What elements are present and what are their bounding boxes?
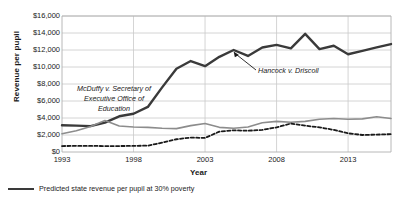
annotation-mcduffy: McDuffy v. Secretary of Executive Office… bbox=[62, 84, 166, 114]
legend-line-swatch bbox=[8, 188, 34, 190]
x-axis-title: Year bbox=[190, 168, 207, 177]
x-tick-label: 2013 bbox=[340, 155, 357, 164]
legend: Predicted state revenue per pupil at 30%… bbox=[8, 184, 194, 193]
legend-label: Predicted state revenue per pupil at 30%… bbox=[39, 184, 194, 193]
annotation-hancock: Hancock v. Driscoll bbox=[258, 66, 319, 76]
x-tick-label: 2003 bbox=[197, 155, 214, 164]
x-tick-label: 1993 bbox=[54, 155, 71, 164]
line-chart: Revenue per pupil $16,000 $14,000 $12,00… bbox=[0, 0, 399, 197]
x-tick-label: 2008 bbox=[268, 155, 285, 164]
x-tick-label: 1998 bbox=[125, 155, 142, 164]
